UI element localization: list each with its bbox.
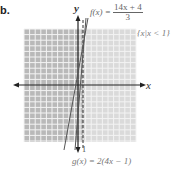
f-function-label: f(x) = 14x + 4 3 bbox=[90, 3, 143, 22]
x-axis-label: x bbox=[146, 79, 151, 91]
set-label: {x|x < 1} bbox=[137, 28, 170, 38]
f-prefix: f(x) = bbox=[90, 7, 113, 17]
y-axis-up-arrow-icon bbox=[76, 15, 81, 21]
x-axis-left-arrow-icon bbox=[13, 83, 19, 88]
boundary-label: 1 bbox=[82, 145, 86, 154]
g-function-label: g(x) = 2(4x − 1) bbox=[72, 156, 131, 166]
f-denominator: 3 bbox=[113, 13, 143, 22]
f-fraction: 14x + 4 3 bbox=[113, 3, 143, 22]
y-axis-label: y bbox=[74, 2, 79, 14]
y-axis-down-arrow-icon bbox=[76, 147, 81, 153]
